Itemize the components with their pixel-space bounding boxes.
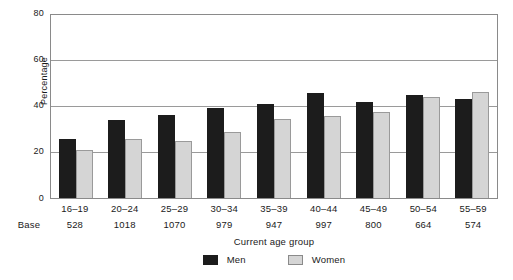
bar-men: [207, 108, 224, 198]
legend-swatch-women-icon: [288, 255, 303, 265]
y-tick-60: 60: [22, 55, 44, 64]
y-tick-0: 0: [22, 194, 44, 203]
bar-men: [356, 102, 373, 198]
legend-item-women[interactable]: Women: [288, 254, 346, 265]
bar-women: [76, 150, 93, 198]
base-values-row: 52810181070979947997800664574: [50, 219, 498, 233]
base-value: 800: [349, 219, 399, 233]
bar-women: [472, 92, 489, 198]
bar-women: [324, 116, 341, 198]
bar-women: [373, 112, 390, 198]
bar-men: [59, 139, 76, 198]
bar-women: [224, 132, 241, 198]
bar-group: [51, 15, 101, 198]
bar-women: [175, 141, 192, 198]
base-value: 1070: [150, 219, 200, 233]
legend: MenWomen: [50, 254, 498, 265]
bar-women: [125, 139, 142, 198]
legend-item-men[interactable]: Men: [203, 254, 246, 265]
x-axis-title: Current age group: [50, 236, 498, 247]
x-tick-label: 25–29: [150, 203, 200, 217]
base-value: 979: [199, 219, 249, 233]
base-row-label: Base: [8, 219, 50, 230]
x-tick-label: 45–49: [349, 203, 399, 217]
base-value: 664: [398, 219, 448, 233]
bar-men: [257, 104, 274, 198]
y-tick-80: 80: [22, 9, 44, 18]
bar-men: [406, 95, 423, 198]
x-tick-label: 50–54: [398, 203, 448, 217]
x-tick-label: 20–24: [100, 203, 150, 217]
legend-label: Women: [312, 254, 346, 265]
bar-group: [448, 15, 498, 198]
bar-chart: Percentage 80 60 40 20 0 16–1920–2425–29…: [0, 0, 513, 280]
x-tick-label: 35–39: [249, 203, 299, 217]
bar-women: [274, 119, 291, 198]
bar-group: [249, 15, 299, 198]
base-value: 574: [448, 219, 498, 233]
y-tick-20: 20: [22, 147, 44, 156]
bar-men: [455, 99, 472, 199]
bar-women: [423, 97, 440, 198]
bars-layer: [51, 15, 497, 198]
bar-group: [200, 15, 250, 198]
bar-group: [398, 15, 448, 198]
x-axis-tick-labels: 16–1920–2425–2930–3435–3940–4445–4950–54…: [50, 203, 498, 217]
base-value: 947: [249, 219, 299, 233]
bar-men: [108, 120, 125, 198]
x-tick-label: 16–19: [50, 203, 100, 217]
x-tick-label: 40–44: [299, 203, 349, 217]
bar-men: [307, 93, 324, 198]
base-value: 997: [299, 219, 349, 233]
bar-group: [150, 15, 200, 198]
bar-group: [348, 15, 398, 198]
y-tick-40: 40: [22, 101, 44, 110]
base-value: 1018: [100, 219, 150, 233]
legend-swatch-men-icon: [203, 255, 218, 265]
bar-group: [299, 15, 349, 198]
x-tick-label: 55–59: [448, 203, 498, 217]
plot-area: [50, 14, 498, 199]
bar-men: [158, 115, 175, 198]
x-tick-label: 30–34: [199, 203, 249, 217]
base-value: 528: [50, 219, 100, 233]
bar-group: [101, 15, 151, 198]
legend-label: Men: [227, 254, 246, 265]
